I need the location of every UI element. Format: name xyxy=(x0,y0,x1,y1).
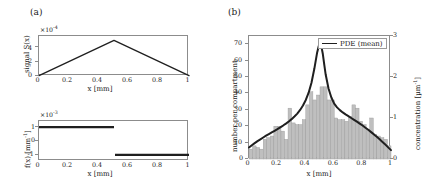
source-ytickmark-neg1 xyxy=(35,154,38,155)
axes-source xyxy=(38,120,188,160)
histogram-bar xyxy=(316,95,320,159)
histogram-bar xyxy=(292,123,296,159)
legend-line-icon xyxy=(322,43,337,44)
histogram-bar xyxy=(341,120,345,159)
histogram-bar xyxy=(338,120,342,159)
signal-xlabel: x [mm] xyxy=(88,85,113,93)
histogram-bar xyxy=(302,120,306,159)
hist-right-ytickmark-2 xyxy=(390,76,393,77)
histogram-bar xyxy=(295,125,299,159)
source-ylabel: f(x) [mm-1] xyxy=(22,130,32,168)
signal-ylabel: signal S(x) xyxy=(23,35,31,73)
panel-label-b: (b) xyxy=(228,7,241,17)
histogram-bar xyxy=(313,100,317,159)
hist-xtick-0: 0 xyxy=(246,159,250,167)
histogram-bar xyxy=(320,87,324,159)
axes-signal xyxy=(38,35,188,75)
legend-label: PDE (mean) xyxy=(340,40,383,48)
histogram-bar xyxy=(270,136,274,159)
hist-right-ytick-3: 3 xyxy=(393,31,397,39)
source-ytickmark-1 xyxy=(35,126,38,127)
hist-xtick-02: 0.2 xyxy=(271,159,281,167)
hist-right-ytickmark-1 xyxy=(390,117,393,118)
hist-right-ytick-0: 0 xyxy=(393,154,397,162)
source-ytickmark-0 xyxy=(35,140,38,141)
signal-ytickmark-4 xyxy=(35,46,38,47)
histogram-bar xyxy=(281,131,285,159)
hist-ytickmark-60 xyxy=(245,60,248,61)
source-xtick-1: 1 xyxy=(186,161,190,169)
axes-histogram xyxy=(248,35,390,158)
histogram-bar xyxy=(331,100,335,159)
histogram-bar xyxy=(348,116,352,159)
hist-xtick-08: 0.8 xyxy=(356,159,366,167)
hist-ytickmark-70 xyxy=(245,43,248,44)
histogram-bar xyxy=(359,121,363,159)
histogram-bar xyxy=(345,121,349,159)
histogram-bar xyxy=(267,138,271,159)
signal-plot-svg xyxy=(39,36,189,76)
histogram-right-ylabel: concentration [µm-1] xyxy=(412,77,422,150)
histogram-bar xyxy=(352,105,356,159)
signal-xtick-1: 1 xyxy=(186,76,190,84)
histogram-bar xyxy=(306,105,310,159)
histogram-bar xyxy=(384,139,388,159)
legend-pde[interactable]: PDE (mean) xyxy=(318,38,387,49)
signal-ytickmark-2 xyxy=(35,61,38,62)
source-xtick-04: 0.4 xyxy=(92,161,102,169)
source-y-exponent: ×10-3 xyxy=(40,110,58,118)
histogram-bar xyxy=(324,87,328,159)
hist-ytick-70: 70 xyxy=(234,39,242,47)
hist-ytickmark-40 xyxy=(245,92,248,93)
source-xtick-02: 0.2 xyxy=(62,161,72,169)
histogram-bar xyxy=(356,108,360,159)
hist-ytickmark-50 xyxy=(245,76,248,77)
histogram-bar xyxy=(334,118,338,159)
histogram-bar xyxy=(260,149,264,159)
figure-canvas: (a) ×10-4 0 2 4 0 0.2 0.4 0.6 0.8 1 x [m… xyxy=(0,0,426,193)
histogram-bar xyxy=(327,100,331,159)
histogram-plot-svg xyxy=(249,36,391,159)
histogram-ylabel: number per compartment xyxy=(231,60,239,152)
histogram-bar xyxy=(249,149,253,159)
histogram-bar xyxy=(309,92,313,159)
source-xtick-0: 0 xyxy=(36,161,40,169)
signal-xtick-06: 0.6 xyxy=(122,76,132,84)
signal-curve xyxy=(39,40,189,75)
histogram-bar xyxy=(363,125,367,159)
source-xtick-06: 0.6 xyxy=(122,161,132,169)
histogram-bar xyxy=(253,146,257,159)
source-xtick-08: 0.8 xyxy=(152,161,162,169)
hist-xtick-04: 0.4 xyxy=(299,159,309,167)
signal-y-exponent: ×10-4 xyxy=(40,25,58,33)
hist-ytickmark-10 xyxy=(245,142,248,143)
histogram-bar xyxy=(263,139,267,159)
hist-right-ytick-1: 1 xyxy=(393,113,397,121)
histogram-xlabel: x [mm] xyxy=(307,170,332,178)
signal-xtick-02: 0.2 xyxy=(62,76,72,84)
hist-ytickmark-20 xyxy=(245,125,248,126)
histogram-bar xyxy=(366,129,370,159)
histogram-bar xyxy=(299,125,303,159)
histogram-bar xyxy=(277,126,281,159)
histogram-bar xyxy=(373,134,377,159)
signal-xtick-04: 0.4 xyxy=(92,76,102,84)
panel-label-a: (a) xyxy=(30,7,42,17)
histogram-bar xyxy=(370,118,374,159)
hist-xtick-1: 1 xyxy=(388,159,392,167)
signal-xtick-08: 0.8 xyxy=(152,76,162,84)
hist-ytick-0: 0 xyxy=(239,154,243,162)
hist-right-ytick-2: 2 xyxy=(393,72,397,80)
histogram-bar xyxy=(288,108,292,159)
histogram-bar xyxy=(256,148,260,159)
hist-ytickmark-30 xyxy=(245,109,248,110)
histogram-bar xyxy=(285,139,289,159)
source-plot-svg xyxy=(39,121,189,161)
histogram-bars xyxy=(249,87,391,159)
hist-xtick-06: 0.6 xyxy=(328,159,338,167)
signal-xtick-0: 0 xyxy=(36,76,40,84)
hist-right-ytickmark-3 xyxy=(390,35,393,36)
source-xlabel: x [mm] xyxy=(88,170,113,178)
